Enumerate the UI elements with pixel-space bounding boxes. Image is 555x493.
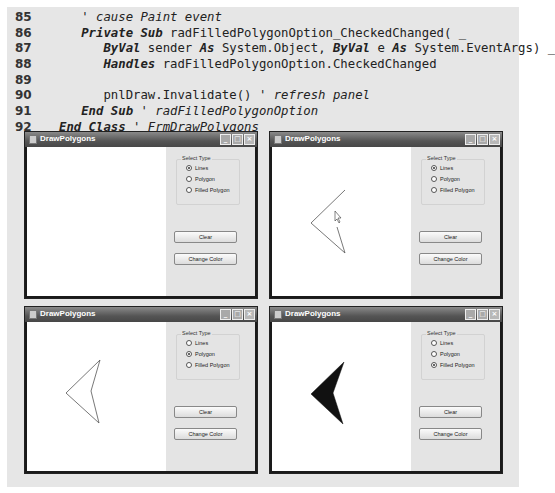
radio-lines[interactable]: Lines (186, 165, 208, 171)
comment: ' cause Paint event (81, 10, 222, 24)
app-icon (29, 135, 37, 144)
keyword: Private Sub (81, 26, 162, 40)
form-client-area: Select Type Lines Polygon Filled Polygon… (272, 147, 500, 296)
radio-button-icon[interactable] (186, 362, 192, 368)
code-token: radFilledPolygonOption_CheckedChanged( _ (163, 26, 467, 40)
clear-button[interactable]: Clear (419, 406, 482, 418)
groupbox-label: Select Type (181, 155, 212, 161)
radio-button-icon[interactable] (431, 165, 437, 171)
radio-button-icon[interactable] (431, 176, 437, 182)
title-bar[interactable]: DrawPolygons _ □ × (25, 307, 257, 322)
radio-filled-polygon[interactable]: Filled Polygon (431, 187, 475, 193)
groupbox-label: Select Type (426, 330, 457, 336)
code-line: 88 Handles radFilledPolygonOption.Checke… (7, 57, 519, 73)
code-token (59, 41, 103, 55)
keyword: As (200, 41, 215, 55)
code-line: 87 ByVal sender As System.Object, ByVal … (7, 41, 519, 57)
minimize-button[interactable]: _ (220, 134, 231, 145)
keyword: ByVal (103, 41, 140, 55)
drawing-canvas[interactable] (27, 322, 166, 473)
change-color-button[interactable]: Change Color (174, 428, 237, 440)
maximize-button[interactable]: □ (477, 309, 488, 320)
maximize-button[interactable]: □ (232, 309, 243, 320)
radio-lines[interactable]: Lines (431, 340, 453, 346)
select-type-groupbox: Select Type Lines Polygon Filled Polygon (176, 159, 240, 205)
close-button[interactable]: × (244, 309, 255, 320)
draw-panel[interactable] (272, 147, 411, 296)
code-text: ' cause Paint event (59, 10, 222, 26)
clear-button[interactable]: Clear (174, 231, 237, 243)
radio-label: Filled Polygon (440, 362, 475, 368)
comment: ' refresh panel (259, 88, 370, 102)
select-type-groupbox: Select Type Lines Polygon Filled Polygon (421, 159, 485, 205)
drawing-canvas[interactable] (27, 147, 166, 298)
code-text: Private Sub radFilledPolygonOption_Check… (59, 26, 466, 42)
window-title: DrawPolygons (285, 134, 341, 143)
change-color-button[interactable]: Change Color (419, 253, 482, 265)
title-bar[interactable]: DrawPolygons _ □ × (270, 132, 502, 147)
radio-button-icon[interactable] (431, 362, 437, 368)
code-line: 89 (7, 73, 519, 89)
title-bar[interactable]: DrawPolygons _ □ × (25, 132, 257, 147)
clear-button[interactable]: Clear (174, 406, 237, 418)
close-button[interactable]: × (489, 309, 500, 320)
draw-panel[interactable] (272, 322, 411, 471)
groupbox-label: Select Type (181, 330, 212, 336)
radio-filled-polygon[interactable]: Filled Polygon (186, 187, 230, 193)
radio-button-icon[interactable] (431, 340, 437, 346)
drawing-canvas[interactable] (272, 147, 411, 298)
radio-polygon[interactable]: Polygon (186, 176, 215, 182)
drawpolygons-window: DrawPolygons _ □ × Select Type Lines Pol… (269, 306, 503, 474)
radio-button-icon[interactable] (186, 351, 192, 357)
form-client-area: Select Type Lines Polygon Filled Polygon… (27, 147, 255, 296)
radio-lines[interactable]: Lines (186, 340, 208, 346)
radio-label: Polygon (195, 176, 215, 182)
draw-panel[interactable] (27, 322, 166, 471)
code-text: ByVal sender As System.Object, ByVal e A… (59, 41, 555, 57)
code-token: pnlDraw.Invalidate() (59, 88, 259, 102)
maximize-button[interactable]: □ (477, 134, 488, 145)
window-title: DrawPolygons (285, 309, 341, 318)
change-color-button[interactable]: Change Color (174, 253, 237, 265)
line-number: 87 (15, 41, 32, 57)
close-button[interactable]: × (489, 134, 500, 145)
radio-button-icon[interactable] (186, 176, 192, 182)
title-bar[interactable]: DrawPolygons _ □ × (270, 307, 502, 322)
line-number: 86 (15, 26, 32, 42)
mouse-cursor-icon (335, 211, 341, 223)
drawing-canvas[interactable] (272, 322, 411, 473)
radio-button-icon[interactable] (186, 340, 192, 346)
minimize-button[interactable]: _ (220, 309, 231, 320)
maximize-button[interactable]: □ (232, 134, 243, 145)
code-text: End Sub ' radFilledPolygonOption (59, 104, 318, 120)
minimize-button[interactable]: _ (465, 309, 476, 320)
radio-lines[interactable]: Lines (431, 165, 453, 171)
radio-filled-polygon[interactable]: Filled Polygon (431, 362, 475, 368)
keyword: ByVal (333, 41, 370, 55)
close-button[interactable]: × (244, 134, 255, 145)
radio-button-icon[interactable] (431, 351, 437, 357)
clear-button[interactable]: Clear (419, 231, 482, 243)
code-token: sender (140, 41, 199, 55)
code-token: e (370, 41, 392, 55)
drawpolygons-window: DrawPolygons _ □ × Select Type Lines Pol… (24, 131, 258, 299)
change-color-button[interactable]: Change Color (419, 428, 482, 440)
radio-polygon[interactable]: Polygon (431, 176, 460, 182)
select-type-groupbox: Select Type Lines Polygon Filled Polygon (176, 334, 240, 380)
radio-button-icon[interactable] (431, 187, 437, 193)
radio-filled-polygon[interactable]: Filled Polygon (186, 362, 230, 368)
comment: ' radFilledPolygonOption (140, 104, 318, 118)
minimize-button[interactable]: _ (465, 134, 476, 145)
radio-button-icon[interactable] (186, 187, 192, 193)
draw-panel[interactable] (27, 147, 166, 296)
code-line: 86 Private Sub radFilledPolygonOption_Ch… (7, 26, 519, 42)
select-type-groupbox: Select Type Lines Polygon Filled Polygon (421, 334, 485, 380)
app-icon (274, 310, 282, 319)
radio-polygon[interactable]: Polygon (431, 351, 460, 357)
radio-polygon[interactable]: Polygon (186, 351, 215, 357)
form-client-area: Select Type Lines Polygon Filled Polygon… (27, 322, 255, 471)
radio-button-icon[interactable] (186, 165, 192, 171)
radio-label: Lines (195, 165, 208, 171)
app-icon (274, 135, 282, 144)
radio-label: Lines (440, 165, 453, 171)
